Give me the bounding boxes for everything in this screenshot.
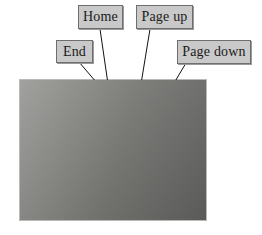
leader-lines: [0, 0, 262, 235]
callout-page-up: Page up: [136, 5, 193, 29]
leader-line-pagedown: [158, 63, 186, 110]
callout-page-up-label: Page up: [141, 9, 187, 25]
callout-end-label: End: [63, 44, 86, 60]
leader-line-home: [100, 29, 108, 84]
callout-end: End: [56, 40, 93, 63]
callout-home: Home: [78, 5, 123, 29]
leader-line-pageup: [141, 29, 150, 84]
callout-page-down: Page down: [177, 40, 251, 64]
callout-page-down-label: Page down: [182, 44, 246, 60]
leader-line-end: [79, 62, 120, 110]
figure-canvas: ← ← Insert Home Page Up Delete End Page: [0, 0, 262, 235]
callout-home-label: Home: [83, 9, 118, 25]
